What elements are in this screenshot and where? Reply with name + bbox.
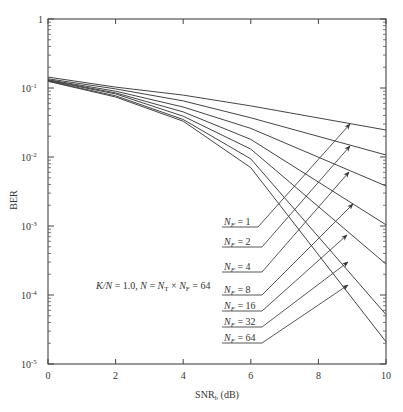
series-labels: NF = 1NF = 2NF = 4NF = 8NF = 16NF = 32NF…: [222, 124, 353, 345]
x-axis-title: SNRb (dB): [195, 389, 239, 402]
curve-nf-64: [48, 81, 386, 342]
y-tick-label: 10-5: [21, 358, 37, 370]
x-tick-label: 8: [316, 370, 321, 381]
x-tick-label: 6: [248, 370, 253, 381]
x-tick-label: 0: [46, 370, 51, 381]
x-tick-label: 4: [181, 370, 186, 381]
parameter-annotation: K/N = 1.0, N = NT × NF = 64: [95, 280, 210, 293]
y-tick-label: 10-3: [21, 220, 37, 232]
curve-nf-8: [48, 80, 386, 225]
curve-nf-16: [48, 81, 386, 265]
plot-axes: 0246810110-110-210-310-410-5: [21, 14, 391, 381]
plot-frame: [48, 19, 386, 364]
y-tick-label: 10-2: [21, 151, 37, 163]
x-tick-label: 2: [113, 370, 118, 381]
x-tick-label: 10: [381, 370, 391, 381]
ber-curves: [48, 77, 386, 342]
y-tick-label: 1: [38, 14, 43, 25]
y-tick-label: 10-1: [21, 82, 37, 94]
ber-chart: 0246810110-110-210-310-410-5 NF = 1NF = …: [0, 0, 403, 412]
y-tick-label: 10-4: [21, 289, 37, 301]
y-axis-title: BER: [8, 190, 19, 210]
curve-nf-1: [48, 77, 386, 130]
